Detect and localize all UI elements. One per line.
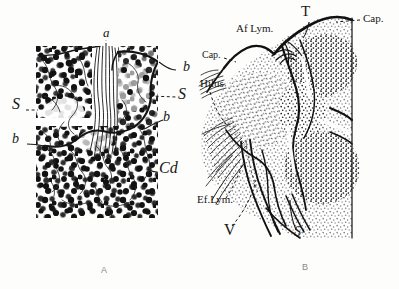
label-b-cap-right: Cap. (363, 13, 383, 24)
label-a-b-mid-right: b (163, 110, 170, 124)
label-a-s-right: S (178, 86, 186, 102)
label-b-ef-lym: Ef.Lym. (197, 194, 233, 205)
label-a-cd: Cd (159, 160, 178, 176)
label-b-af-lym: Af Lym. (236, 23, 273, 34)
figure-artwork (0, 0, 399, 289)
label-a-s-left: S (12, 96, 20, 112)
panel-caption-a: A (101, 266, 107, 275)
label-b-t: T (301, 4, 310, 19)
label-b-v: V (224, 222, 236, 238)
figure-plate: a b S b S b Cd T Cap. Af Lym. Cap. Hilus… (0, 0, 399, 289)
panel-a-artwork (26, 40, 176, 218)
panel-caption-b: B (302, 263, 308, 272)
label-b-cap-left: Cap. (202, 50, 221, 60)
label-b-hilus: Hilus (200, 78, 224, 89)
panel-b-artwork (196, 10, 366, 242)
label-a-trabecula: a (103, 26, 110, 39)
label-a-b-left: b (12, 132, 19, 146)
label-a-b-upper-right: b (183, 60, 190, 74)
label-b-s: S (294, 225, 301, 239)
